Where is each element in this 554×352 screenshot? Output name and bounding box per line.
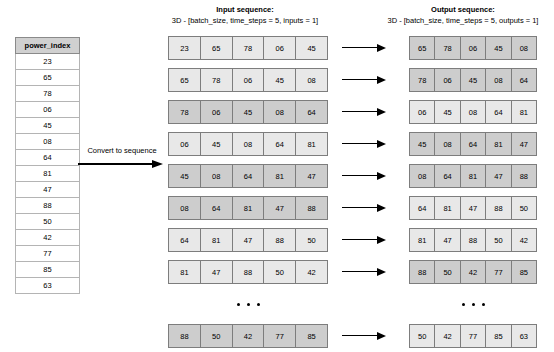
output-sequence-row: 0645086481 [409, 100, 537, 124]
sequence-cell: 63 [512, 325, 536, 347]
sequence-cell: 88 [486, 197, 511, 219]
sequence-cell: 06 [410, 101, 435, 123]
input-sequence-row: 8147885042 [168, 260, 328, 284]
sequence-cell: 81 [486, 133, 511, 155]
table-row: 88 [16, 198, 80, 214]
output-sequence-heading: Output sequence: 3D - [batch_size, time_… [368, 5, 554, 26]
arrow-shaft [342, 111, 379, 112]
sequence-cell: 77 [461, 325, 486, 347]
sequence-cell: 45 [410, 133, 435, 155]
table-row: 85 [16, 262, 80, 278]
right-arrow-icon [78, 159, 164, 168]
table-cell-power-index: 64 [16, 150, 80, 166]
sequence-cell: 45 [201, 133, 233, 155]
output-sequence-row: 7806450864 [409, 68, 537, 92]
sequence-cell: 50 [296, 229, 327, 251]
sequence-cell: 42 [233, 325, 265, 347]
table-row: 06 [16, 102, 80, 118]
arrow-shaft [78, 163, 154, 165]
right-arrow-icon [338, 196, 400, 220]
sequence-cell: 47 [233, 229, 265, 251]
table-row: 65 [16, 70, 80, 86]
sequence-cell: 65 [169, 69, 201, 91]
sequence-cell: 64 [201, 197, 233, 219]
table-cell-power-index: 78 [16, 86, 80, 102]
sequence-cell: 08 [486, 69, 511, 91]
sequence-cell: 45 [233, 101, 265, 123]
sequence-cell: 81 [512, 101, 536, 123]
table-cell-power-index: 42 [16, 230, 80, 246]
sequence-cell: 88 [169, 325, 201, 347]
sequence-cell: 64 [486, 101, 511, 123]
sequence-cell: 81 [233, 197, 265, 219]
sequence-cell: 47 [296, 165, 327, 187]
power-index-table: power_index 2365780645086481478850427785… [15, 37, 80, 294]
sequence-cell: 06 [264, 37, 296, 59]
sequence-cell: 77 [486, 261, 511, 283]
table-row: 08 [16, 134, 80, 150]
arrow-shaft [342, 207, 379, 208]
arrow-shaft [342, 79, 379, 80]
input-sequence-subtitle: 3D - [batch_size, time_steps = 5, inputs… [150, 16, 340, 27]
table-row: 81 [16, 166, 80, 182]
sequence-cell: 50 [486, 229, 511, 251]
sequence-cell: 78 [435, 37, 460, 59]
right-arrow-icon [338, 324, 400, 348]
sequence-cell: 47 [264, 197, 296, 219]
sequence-cell: 78 [169, 101, 201, 123]
sequence-cell: 88 [461, 229, 486, 251]
output-sequence-row: 6578064508 [409, 36, 537, 60]
sequence-cell: 06 [461, 37, 486, 59]
arrow-head [377, 44, 386, 52]
sequence-cell: 50 [512, 197, 536, 219]
sequence-cell: 50 [264, 261, 296, 283]
arrow-head [152, 160, 163, 168]
sequence-cell: 08 [233, 133, 265, 155]
arrow-shaft [342, 47, 379, 48]
table-cell-power-index: 50 [16, 214, 80, 230]
ellipsis-dot [482, 303, 485, 306]
sequence-cell: 42 [296, 261, 327, 283]
sequence-cell: 42 [512, 229, 536, 251]
power-index-table-head: power_index [16, 38, 80, 54]
arrow-spacer [338, 292, 400, 316]
sequence-cell: 50 [201, 325, 233, 347]
ellipsis-dot [462, 303, 465, 306]
sequence-cell: 81 [296, 133, 327, 155]
sequence-cell: 50 [435, 261, 460, 283]
sequence-cell: 45 [296, 37, 327, 59]
input-sequence-row: 0864814788 [168, 196, 328, 220]
arrow-head [377, 204, 386, 212]
sequence-cell: 08 [169, 197, 201, 219]
sequence-cell: 06 [169, 133, 201, 155]
table-cell-power-index: 65 [16, 70, 80, 86]
sequence-cell: 06 [201, 101, 233, 123]
table-row: 23 [16, 54, 80, 70]
output-sequence-row: 8147885042 [409, 228, 537, 252]
input-sequence-row: 4508648147 [168, 164, 328, 188]
sequence-cell: 23 [169, 37, 201, 59]
sequence-cell: 64 [296, 101, 327, 123]
convert-to-sequence-group: Convert to sequence [78, 146, 166, 168]
sequence-cell: 08 [512, 37, 536, 59]
sequence-cell: 45 [461, 69, 486, 91]
sequence-cell: 06 [233, 69, 265, 91]
output-sequence-row: 0864814788 [409, 164, 537, 188]
sequence-cell: 08 [264, 101, 296, 123]
table-row: 42 [16, 230, 80, 246]
table-cell-power-index: 85 [16, 262, 80, 278]
sequence-cell: 42 [435, 325, 460, 347]
table-cell-power-index: 08 [16, 134, 80, 150]
ellipsis-dot [472, 303, 475, 306]
input-sequence-row: 0645086481 [168, 132, 328, 156]
sequence-cell: 64 [410, 197, 435, 219]
arrow-head [377, 108, 386, 116]
table-cell-power-index: 63 [16, 278, 80, 294]
arrow-head [377, 172, 386, 180]
connector-arrow-column [338, 36, 400, 352]
input-sequence-row: 7806450864 [168, 100, 328, 124]
sequence-cell: 88 [512, 165, 536, 187]
sequence-cell: 45 [169, 165, 201, 187]
input-sequence-row: 6481478850 [168, 228, 328, 252]
arrow-shaft [342, 239, 379, 240]
